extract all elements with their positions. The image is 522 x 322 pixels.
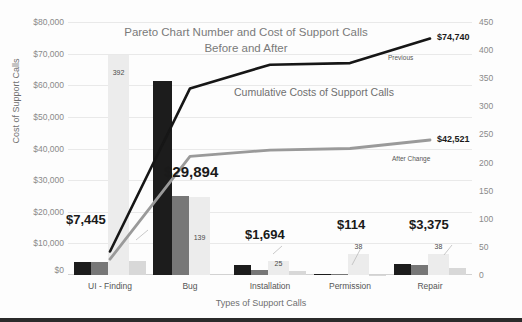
- y-tick-0: $0: [55, 265, 64, 275]
- cost-callout-installation: $1,694: [245, 227, 285, 242]
- line-label-previous-total: $74,740: [437, 32, 470, 42]
- callout-leader: [352, 248, 361, 265]
- cost-callout-bug: $29,894: [164, 163, 218, 180]
- pareto-chart: Pareto Chart Number and Cost of Support …: [0, 0, 522, 322]
- annotation-cumulative-costs: Cumulative Costs of Support Calls: [234, 86, 394, 98]
- y2-tick-1: 50: [479, 242, 488, 252]
- callout-leader: [444, 245, 452, 255]
- y2-tick-8: 400: [479, 45, 493, 55]
- y-tick-8: $80,000: [33, 17, 64, 27]
- x-category-label: Permission: [329, 281, 371, 291]
- y2-tick-4: 200: [479, 158, 493, 168]
- y2-tick-5: 250: [479, 129, 493, 139]
- cost-callout-repair: $3,375: [409, 217, 449, 232]
- cost-callout-permission: $114: [337, 217, 365, 232]
- x-category-label: Installation: [250, 281, 291, 291]
- y-tick-2: $20,000: [33, 207, 64, 217]
- y2-tick-7: 350: [479, 73, 493, 83]
- y-tick-3: $30,000: [33, 175, 64, 185]
- x-category-label: Repair: [417, 281, 442, 291]
- y2-tick-3: 150: [479, 186, 493, 196]
- x-category-label: Bug: [182, 281, 197, 291]
- y-tick-5: $50,000: [33, 112, 64, 122]
- series-label-previous: Previous: [388, 54, 413, 61]
- y2-tick-0: 0: [479, 270, 484, 280]
- x-axis-title: Types of Support Calls: [0, 298, 522, 308]
- plot-area: 392 UI - Finding 139 Bug 25 Installation: [68, 22, 472, 275]
- figure-bottom-border: [0, 318, 522, 322]
- y-axis-left: $0 $10,000 $20,000 $30,000 $40,000 $50,0…: [8, 22, 66, 275]
- line-label-after-total: $42,521: [437, 134, 470, 144]
- x-category-label: UI - Finding: [88, 281, 132, 291]
- y-tick-4: $40,000: [33, 144, 64, 154]
- y2-tick-9: 450: [479, 17, 493, 27]
- y-tick-7: $70,000: [33, 49, 64, 59]
- callout-leader: [136, 230, 148, 240]
- callout-leader: [273, 246, 282, 254]
- y2-tick-2: 100: [479, 214, 493, 224]
- y-tick-1: $10,000: [33, 238, 64, 248]
- y-tick-6: $60,000: [33, 80, 64, 90]
- y2-tick-6: 300: [479, 101, 493, 111]
- series-label-after-change: After Change: [392, 155, 430, 162]
- cost-callout-ui-finding: $7,445: [66, 212, 106, 227]
- y-axis-right: 0 50 100 150 200 250 300 350 400 450: [476, 22, 518, 275]
